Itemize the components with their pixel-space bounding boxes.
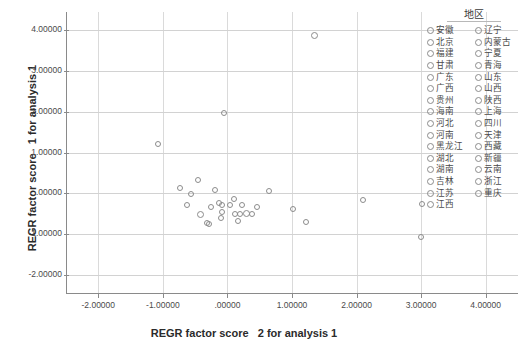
data-point (303, 219, 309, 225)
legend-item[interactable]: 上海 (473, 106, 521, 118)
legend-item-label: 贵州 (436, 95, 454, 106)
legend-item[interactable]: 重庆 (473, 187, 521, 199)
data-point (219, 209, 225, 215)
legend-item-label: 西藏 (484, 141, 502, 152)
legend-item[interactable]: 内蒙古 (473, 37, 521, 49)
legend-item-label: 宁夏 (484, 48, 502, 59)
x-axis-tick-label: .00000 (192, 300, 262, 310)
legend-item[interactable]: 江西 (425, 199, 473, 211)
data-point (155, 141, 161, 147)
legend-item[interactable]: 辽宁 (473, 25, 521, 37)
circle-icon (427, 143, 434, 150)
legend-item[interactable]: 陕西 (473, 95, 521, 107)
legend-item[interactable]: 湖南 (425, 164, 473, 176)
circle-icon (475, 178, 482, 185)
legend-item[interactable]: 西藏 (473, 141, 521, 153)
legend-title-rule (447, 21, 501, 22)
legend-item[interactable]: 河北 (425, 118, 473, 130)
y-axis-tick-label-wrap: 4.00000 (0, 24, 62, 35)
legend-item[interactable]: 河南 (425, 129, 473, 141)
y-axis-tick-label: 3.00000 (4, 65, 62, 75)
legend-item[interactable]: 广西 (425, 83, 473, 95)
legend-item[interactable]: 山西 (473, 83, 521, 95)
circle-icon (427, 190, 434, 197)
legend-item[interactable]: 天津 (473, 129, 521, 141)
legend-item[interactable]: 云南 (473, 164, 521, 176)
legend-item[interactable]: 江苏 (425, 187, 473, 199)
data-point (221, 110, 227, 116)
y-axis-title: REGR factor score 1 for analysis 1 (26, 18, 38, 298)
circle-icon (475, 155, 482, 162)
y-axis-tick-label: 4.00000 (4, 24, 62, 34)
circle-icon (427, 155, 434, 162)
y-axis-tick-label: 1.00000 (4, 147, 62, 157)
circle-icon (427, 74, 434, 81)
legend-item[interactable]: 甘肃 (425, 60, 473, 72)
legend-item[interactable]: 宁夏 (473, 48, 521, 60)
legend-item[interactable]: 北京 (425, 37, 473, 49)
legend-column: 安徽北京福建甘肃广东广西贵州海南河北河南黑龙江湖北湖南吉林江苏江西 (425, 25, 473, 211)
x-axis-tick-label: -1.00000 (128, 300, 198, 310)
legend: 地区 安徽北京福建甘肃广东广西贵州海南河北河南黑龙江湖北湖南吉林江苏江西辽宁内蒙… (425, 4, 522, 220)
circle-icon (427, 108, 434, 115)
legend-item[interactable]: 湖北 (425, 153, 473, 165)
legend-item-label: 甘肃 (436, 60, 454, 71)
legend-item-label: 江苏 (436, 188, 454, 199)
legend-item-label: 河北 (436, 118, 454, 129)
legend-item-label: 吉林 (436, 176, 454, 187)
legend-item[interactable]: 贵州 (425, 95, 473, 107)
x-axis-tick-label: -2.00000 (63, 300, 133, 310)
legend-item[interactable]: 新疆 (473, 153, 521, 165)
legend-item-label: 广西 (436, 83, 454, 94)
y-axis-tick-label-wrap: -1.00000 (0, 228, 62, 239)
legend-item[interactable]: 青海 (473, 60, 521, 72)
legend-item[interactable]: 海南 (425, 106, 473, 118)
legend-item[interactable]: 吉林 (425, 176, 473, 188)
circle-icon (427, 62, 434, 69)
legend-item-label: 湖北 (436, 153, 454, 164)
legend-item-label: 上海 (484, 106, 502, 117)
x-axis-tick-label: 4.00000 (451, 300, 521, 310)
circle-icon (475, 50, 482, 57)
circle-icon (427, 120, 434, 127)
x-axis-title: REGR factor score 2 for analysis 1 (66, 327, 422, 339)
legend-item[interactable]: 福建 (425, 48, 473, 60)
legend-item-label: 四川 (484, 118, 502, 129)
legend-item[interactable]: 浙江 (473, 176, 521, 188)
y-axis-tick-label-wrap: 3.00000 (0, 65, 62, 76)
data-point (266, 188, 272, 194)
legend-item[interactable]: 黑龙江 (425, 141, 473, 153)
circle-icon (427, 39, 434, 46)
y-axis-tick-label: -2.00000 (4, 269, 62, 279)
data-point (235, 218, 241, 224)
circle-icon (427, 50, 434, 57)
data-point (418, 234, 424, 240)
circle-icon (427, 132, 434, 139)
legend-item-label: 陕西 (484, 95, 502, 106)
legend-item-label: 新疆 (484, 153, 502, 164)
legend-item-label: 内蒙古 (484, 37, 511, 48)
legend-item-label: 重庆 (484, 188, 502, 199)
circle-icon (427, 85, 434, 92)
data-point (231, 196, 237, 202)
data-point (184, 202, 190, 208)
legend-item-label: 广东 (436, 72, 454, 83)
legend-item[interactable]: 安徽 (425, 25, 473, 37)
circle-icon (475, 166, 482, 173)
circle-icon (475, 143, 482, 150)
circle-icon (475, 39, 482, 46)
data-point (212, 187, 218, 193)
legend-item-label: 云南 (484, 164, 502, 175)
data-point (290, 206, 296, 212)
legend-item[interactable]: 四川 (473, 118, 521, 130)
data-point (177, 185, 183, 191)
circle-icon (475, 108, 482, 115)
circle-icon (475, 190, 482, 197)
legend-item[interactable]: 山东 (473, 71, 521, 83)
circle-icon (427, 27, 434, 34)
legend-title: 地区 (425, 6, 522, 21)
legend-column: 辽宁内蒙古宁夏青海山东山西陕西上海四川天津西藏新疆云南浙江重庆 (473, 25, 521, 211)
legend-item[interactable]: 广东 (425, 71, 473, 83)
circle-icon (427, 97, 434, 104)
data-point (254, 204, 260, 210)
